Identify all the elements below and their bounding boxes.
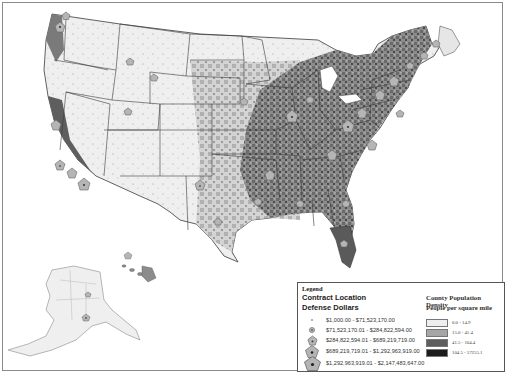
density-swatch bbox=[426, 329, 448, 337]
legend-density-class: 15.0 - 41.4 bbox=[426, 328, 473, 337]
hawaii bbox=[122, 252, 156, 282]
map-legend: Legend Contract Location Defense Dollars… bbox=[297, 282, 505, 372]
legend-density-class: 0.0 - 14.9 bbox=[426, 318, 470, 327]
legend-density-class: 41.5 - 104.4 bbox=[426, 338, 475, 347]
legend-dollars-heading: Defense Dollars bbox=[302, 303, 359, 312]
alaska bbox=[8, 266, 140, 356]
legend-title: Legend bbox=[302, 285, 323, 292]
legend-contract-class: $1,292,963,919.01 - $2,147,483,647.00 bbox=[302, 358, 424, 368]
legend-contract-class: $689,219,719.01 - $1,292,963,919.00 bbox=[302, 346, 420, 356]
density-swatch bbox=[426, 319, 448, 327]
legend-density-subheading: People per square mile bbox=[426, 304, 492, 311]
pentagon-marker-icon bbox=[302, 357, 322, 369]
density-swatch bbox=[426, 349, 448, 357]
density-swatch bbox=[426, 339, 448, 347]
contiguous-us bbox=[44, 14, 460, 268]
legend-contract-heading: Contract Location bbox=[302, 293, 366, 302]
legend-contract-class: $284,822,594.01 - $689,219,719.00 bbox=[302, 335, 415, 345]
legend-density-class: 104.5 - 57255.1 bbox=[426, 348, 482, 357]
